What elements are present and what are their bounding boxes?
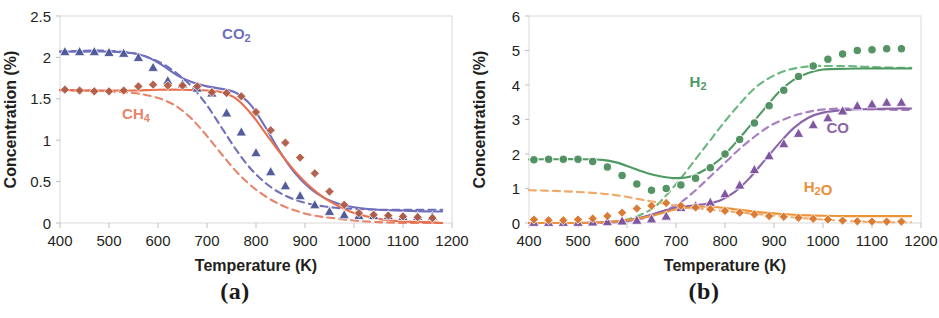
data-marker (266, 126, 275, 135)
data-marker (325, 187, 334, 196)
data-marker (296, 153, 305, 162)
series-line (529, 68, 911, 178)
data-marker (119, 86, 128, 95)
x-axis-tick-label: 700 (194, 232, 219, 249)
y-axis-tick-label: 1 (43, 132, 51, 149)
data-marker (662, 184, 671, 193)
data-marker (853, 46, 862, 55)
data-marker (559, 155, 568, 164)
y-axis-tick-label: 0 (43, 215, 51, 232)
data-marker (60, 85, 69, 94)
x-axis-tick-label: 500 (565, 232, 590, 249)
data-marker (618, 171, 627, 180)
y-axis-tick-label: 2.5 (30, 8, 51, 25)
data-marker (618, 208, 627, 217)
data-marker (530, 156, 539, 165)
series-annotation-h2: H2 (690, 73, 707, 92)
x-axis-tick-label: 800 (243, 232, 268, 249)
data-marker (897, 217, 906, 226)
figure-container: 00.511.522.54005006007008009001000110012… (0, 0, 939, 318)
x-axis-tick-label: 600 (145, 232, 170, 249)
series-line (60, 51, 442, 211)
x-axis-tick-label: 1100 (387, 232, 419, 249)
data-marker (603, 212, 612, 221)
x-axis-tick-label: 400 (516, 232, 541, 249)
series-annotation-ch4: CH4 (122, 105, 151, 124)
data-marker (75, 86, 84, 95)
data-marker (867, 99, 877, 108)
x-axis-tick-label: 400 (47, 232, 72, 249)
data-marker (882, 44, 891, 53)
x-axis-tick-label: 800 (712, 232, 737, 249)
series-line (529, 190, 911, 222)
data-marker (824, 55, 833, 64)
y-axis-tick-label: 0.5 (30, 173, 51, 190)
x-axis-tick-label: 600 (614, 232, 639, 249)
x-axis-title: Temperature (K) (664, 257, 786, 274)
panel-a-caption: (a) (0, 278, 470, 305)
x-axis-tick-label: 1000 (806, 232, 839, 249)
data-marker (897, 44, 906, 53)
data-marker (808, 119, 818, 128)
data-marker (868, 46, 877, 55)
data-marker (632, 204, 641, 213)
series-annotation-h2o: H2O (804, 178, 833, 198)
data-marker (236, 127, 246, 136)
x-axis-tick-label: 1200 (435, 232, 468, 249)
x-axis-title: Temperature (K) (195, 257, 317, 274)
data-marker (677, 181, 686, 190)
series-annotation-co2: CO2 (222, 25, 251, 44)
panel-b-caption: (b) (469, 278, 939, 305)
data-marker (104, 87, 113, 96)
data-marker (882, 97, 892, 106)
y-axis-tick-label: 1 (512, 180, 520, 197)
y-axis-tick-label: 0 (512, 215, 520, 232)
x-axis-tick-label: 1000 (337, 232, 370, 249)
y-axis-tick-label: 5 (512, 42, 520, 59)
data-marker (588, 157, 597, 166)
data-marker (633, 180, 642, 189)
y-axis-title: Concentration (%) (471, 51, 488, 189)
data-marker (735, 135, 744, 144)
y-axis-tick-label: 2 (43, 49, 51, 66)
data-marker (647, 186, 656, 195)
data-marker (574, 155, 583, 164)
data-marker (721, 150, 730, 159)
series-annotation-co: CO (826, 119, 849, 136)
y-axis-tick-label: 3 (512, 111, 520, 128)
data-marker (780, 86, 789, 95)
data-marker (281, 138, 290, 147)
data-marker (706, 164, 715, 173)
data-marker (882, 217, 891, 226)
panel-a-svg: 00.511.522.54005006007008009001000110012… (0, 0, 470, 278)
data-marker (765, 101, 774, 110)
series-line (529, 108, 911, 223)
y-axis-tick-label: 6 (512, 8, 520, 25)
data-marker (280, 181, 290, 190)
data-marker (149, 80, 158, 89)
data-marker (793, 128, 803, 137)
chart-panel-a: 00.511.522.54005006007008009001000110012… (0, 0, 470, 318)
data-marker (90, 87, 99, 96)
x-axis-tick-label: 900 (761, 232, 786, 249)
data-marker (691, 174, 700, 183)
data-marker (295, 190, 305, 199)
data-marker (896, 97, 906, 106)
data-marker (853, 217, 862, 226)
data-marker (838, 50, 847, 59)
y-axis-tick-label: 4 (512, 77, 520, 94)
x-axis-tick-label: 1200 (904, 232, 937, 249)
data-marker (544, 155, 553, 164)
series-line (529, 108, 911, 223)
y-axis-tick-label: 1.5 (30, 90, 51, 107)
data-marker (310, 169, 319, 178)
series-markers (60, 46, 438, 220)
data-marker (794, 72, 803, 81)
data-marker (838, 216, 847, 225)
data-marker (720, 188, 730, 197)
data-marker (809, 62, 818, 71)
y-axis-tick-label: 2 (512, 146, 520, 163)
data-marker (148, 62, 158, 71)
data-marker (266, 166, 276, 175)
panel-b-plot-root: 0123456400500600700800900100011001200Tem… (471, 8, 938, 275)
